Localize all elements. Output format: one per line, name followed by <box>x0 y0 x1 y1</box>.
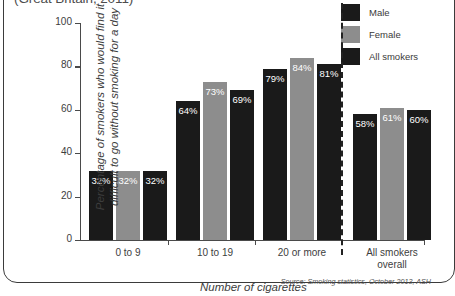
legend-item-male: Male <box>341 3 441 22</box>
y-axis-line <box>80 23 81 240</box>
y-tick-label-0: 0 <box>66 233 72 244</box>
x-axis-line <box>80 240 425 241</box>
bar-20-or-more-all-smokers: 81% <box>317 64 341 240</box>
x-group-label-0-to-9: 0 to 9 <box>88 247 168 259</box>
bar-0-to-9-all-smokers: 32% <box>143 171 167 240</box>
bar-value-0-to-9-all-smokers: 32% <box>143 175 167 186</box>
bar-10-to-19-all-smokers: 69% <box>230 90 254 240</box>
plot-area: 0 20 40 60 80 100 32% <box>80 23 425 240</box>
y-axis-title-line-2: difficult to go without smoking for a da… <box>107 0 121 222</box>
bar-10-to-19-female: 73% <box>203 82 227 240</box>
y-tick-label-80: 80 <box>61 59 72 70</box>
bar-10-to-19-male: 64% <box>176 101 200 240</box>
source-note: Source: Smoking statistics, October 2013… <box>281 277 431 286</box>
bar-20-or-more-female: 84% <box>290 58 314 240</box>
bar-value-20-or-more-female: 84% <box>290 62 314 73</box>
x-tick-1 <box>168 240 169 245</box>
x-group-label-all-smokers-overall: All smokers overall <box>352 247 432 270</box>
y-tick-label-20: 20 <box>61 190 72 201</box>
x-tick-2 <box>255 240 256 245</box>
legend-label-male: Male <box>369 7 390 18</box>
bar-value-10-to-19-male: 64% <box>176 105 200 116</box>
bar-value-all-smokers-overall-female: 61% <box>380 112 404 123</box>
bar-value-10-to-19-all-smokers: 69% <box>230 94 254 105</box>
y-tick-label-100: 100 <box>55 16 72 27</box>
bar-value-all-smokers-overall-all-smokers: 60% <box>407 114 431 125</box>
bar-all-smokers-overall-female: 61% <box>380 108 404 240</box>
dashed-separator-line <box>341 3 343 255</box>
x-group-label-10-to-19: 10 to 19 <box>175 247 255 259</box>
y-tick-label-40: 40 <box>61 146 72 157</box>
bar-value-10-to-19-female: 73% <box>203 86 227 97</box>
bar-value-20-or-more-male: 79% <box>263 73 287 84</box>
bar-value-all-smokers-overall-male: 58% <box>353 118 377 129</box>
y-axis-title-line-1: Percentage of smokers who would find it <box>93 0 107 222</box>
y-tick-label-60: 60 <box>61 103 72 114</box>
x-group-label-20-or-more: 20 or more <box>262 247 342 259</box>
bar-20-or-more-male: 79% <box>263 69 287 240</box>
y-axis-title: Percentage of smokers who would find it … <box>93 0 121 222</box>
bar-all-smokers-overall-male: 58% <box>353 114 377 240</box>
bar-value-20-or-more-all-smokers: 81% <box>317 68 341 79</box>
bar-all-smokers-overall-all-smokers: 60% <box>407 110 431 240</box>
legend-swatch-male <box>341 4 360 21</box>
x-tick-4 <box>424 240 425 245</box>
